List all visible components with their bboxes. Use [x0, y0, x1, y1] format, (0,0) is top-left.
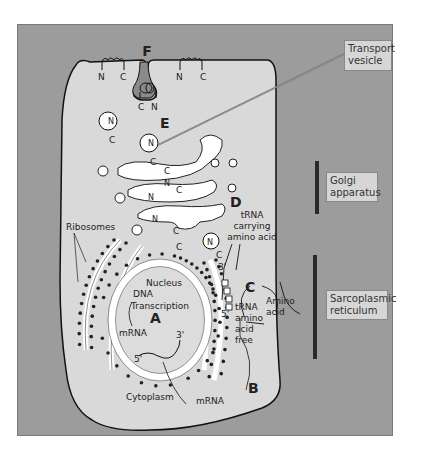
ribosome-dot	[224, 337, 228, 341]
ribosome-dot	[208, 275, 212, 279]
n-terminal-label: N	[148, 139, 154, 148]
ribosome-dot	[113, 255, 117, 259]
ribosome-dot	[136, 257, 140, 261]
mrna-cytoplasm-label: mRNA	[196, 396, 225, 406]
ribosome-dot	[77, 332, 81, 336]
sarcoplasmic-bracket-bar	[313, 255, 317, 359]
n-terminal-label: N	[108, 117, 114, 126]
stage-label-c: C	[245, 279, 255, 295]
stage-label-a: A	[150, 310, 161, 326]
ribosome-dot	[212, 340, 216, 344]
transport-vesicle-line2: vesicle	[348, 55, 388, 67]
ribosome-dot	[106, 351, 110, 355]
ribosome-dot	[200, 271, 204, 275]
ribosome-dot	[89, 335, 93, 339]
three-prime-nucleus-label: 3'	[176, 330, 184, 340]
ribosome-dot	[213, 309, 217, 313]
stage-label-b: B	[248, 380, 259, 396]
ribosome-dot	[222, 360, 226, 364]
ribosome-dot	[90, 324, 94, 328]
ribosome-dot	[102, 296, 106, 300]
ribosome-dot	[197, 369, 201, 373]
ribosome-dot	[160, 252, 164, 256]
ribosome-dot	[101, 336, 105, 340]
trna-free-label-line4: free	[235, 335, 253, 345]
n-terminal-label: N	[98, 72, 105, 82]
c-terminal-label: C	[173, 226, 179, 236]
ribosome-dot	[88, 275, 92, 279]
ribosome-dot	[212, 347, 216, 351]
ribosome-dot	[210, 363, 214, 367]
c-terminal-label: C	[150, 157, 156, 167]
n-terminal-label: N	[152, 215, 158, 224]
c-terminal-label: C	[138, 102, 144, 112]
five-prime-nucleus-label: 5'	[134, 354, 142, 364]
stage-label-e: E	[160, 115, 170, 131]
three-prime-er-label: 3'	[218, 262, 226, 272]
ribosome-dot	[140, 381, 144, 385]
golgi-line1: Golgi	[330, 175, 374, 187]
sarcoplasmic-line2: reticulum	[330, 305, 384, 317]
golgi-line2: apparatus	[330, 187, 374, 199]
dna-label: DNA	[133, 289, 154, 299]
sarcoplasmic-callout: Sarcoplasmic reticulum	[326, 290, 388, 320]
ribosome-dot	[216, 334, 220, 338]
trna-carrying-label-line2: carrying	[234, 221, 271, 231]
c-terminal-label: C	[176, 185, 182, 195]
trna-free-label-line3: acid	[235, 324, 254, 334]
ribosome-dot	[220, 272, 224, 276]
amino-acid-label-line2: acid	[266, 307, 285, 317]
ribosome-dot	[204, 276, 208, 280]
ribosome-dot	[179, 256, 183, 260]
n-terminal-label: N	[207, 238, 213, 247]
c-terminal-label: C	[216, 250, 222, 260]
ribosome-dot	[205, 268, 209, 272]
ribosome-dot	[115, 364, 119, 368]
ribosome-dot	[195, 266, 199, 270]
ribosome-dot	[207, 375, 211, 379]
ribosome-dot	[103, 270, 107, 274]
c-terminal-label: C	[120, 72, 126, 82]
ribosome-dot	[213, 319, 217, 323]
ribosome-dot	[84, 284, 88, 288]
ribosome-dot	[92, 305, 96, 309]
n-terminal-label: N	[151, 102, 158, 112]
n-terminal-label: N	[176, 72, 183, 82]
ribosome-dot	[218, 321, 222, 325]
ribosome-dot	[91, 267, 95, 271]
ribosomes-label: Ribosomes	[66, 222, 115, 232]
ribosome-dot	[100, 278, 104, 282]
ribosome-dot	[94, 295, 98, 299]
golgi-callout: Golgi apparatus	[326, 172, 378, 202]
five-prime-er-label: 5'	[221, 309, 229, 319]
ribosome-dot	[101, 252, 105, 256]
ribosome-dot	[148, 253, 152, 257]
trna-free-label-line2: amino	[235, 313, 263, 323]
ribosome-dot	[205, 359, 209, 363]
ribosome-dot	[124, 241, 128, 245]
ribosome-dot	[78, 311, 82, 315]
transport-vesicle-callout: Transport vesicle	[344, 40, 392, 71]
stage-label-d: D	[230, 194, 242, 210]
ribosome-dot	[125, 263, 129, 267]
ribosome-dot	[80, 302, 84, 306]
trna-carrying-label-line1: tRNA	[241, 210, 265, 220]
transcription-label: Transcription	[130, 301, 189, 311]
ribosome-dot	[112, 238, 116, 242]
mrna-nucleus-label: mRNA	[119, 328, 148, 338]
ribosome-dot	[118, 248, 122, 252]
ribosome-dot	[96, 259, 100, 263]
ribosome-dot	[78, 343, 82, 347]
cytoplasm-label: Cytoplasm	[126, 392, 174, 402]
ribosome-dot	[107, 283, 111, 287]
ribosome-dot	[212, 300, 216, 304]
golgi-bracket-bar	[315, 161, 319, 214]
ribosome-dot	[115, 272, 119, 276]
n-terminal-label: N	[164, 179, 170, 188]
sarcoplasmic-line1: Sarcoplasmic	[330, 293, 384, 305]
ribosome-dot	[190, 262, 194, 266]
amino-acid-label-line1: Amino	[266, 296, 295, 306]
ribosome-dot	[90, 346, 94, 350]
c-terminal-label: C	[109, 135, 115, 145]
n-terminal-label: N	[148, 193, 154, 202]
